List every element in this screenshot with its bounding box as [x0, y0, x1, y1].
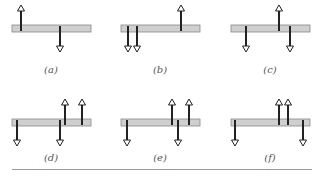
beam — [121, 25, 200, 32]
panel-c — [231, 5, 310, 52]
panel-label-c: (c) — [250, 64, 290, 75]
panel-d — [12, 99, 91, 146]
panel-f — [231, 99, 310, 146]
panel-b — [121, 5, 200, 52]
beam — [12, 25, 91, 32]
panel-label-f: (f) — [250, 152, 290, 163]
beam — [231, 119, 310, 126]
panel-label-e: (e) — [140, 152, 180, 163]
force-diagram — [0, 0, 323, 177]
panel-label-a: (a) — [31, 64, 71, 75]
bottom-rule — [12, 169, 312, 170]
panel-label-d: (d) — [31, 152, 71, 163]
panel-e — [121, 99, 200, 146]
panel-a — [12, 5, 91, 52]
beam — [12, 119, 91, 126]
panel-label-b: (b) — [140, 64, 180, 75]
beam — [231, 25, 310, 32]
